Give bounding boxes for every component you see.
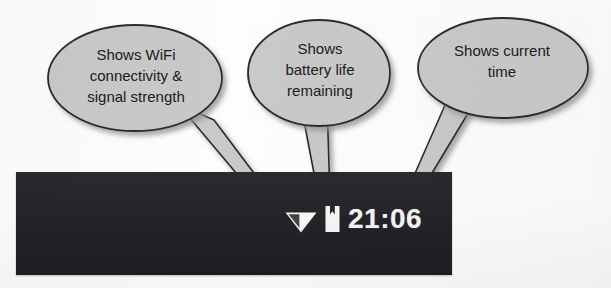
figure-canvas: Shows WiFi connectivity & signal strengt… (0, 0, 611, 288)
wifi-signal-icon[interactable] (284, 205, 318, 233)
status-bar-tray: 21:06 (284, 202, 422, 236)
status-bar-clock[interactable]: 21:06 (348, 205, 422, 233)
android-status-bar[interactable]: 21:06 (16, 172, 452, 275)
bubble-grain (49, 19, 587, 130)
battery-icon[interactable] (325, 205, 340, 233)
